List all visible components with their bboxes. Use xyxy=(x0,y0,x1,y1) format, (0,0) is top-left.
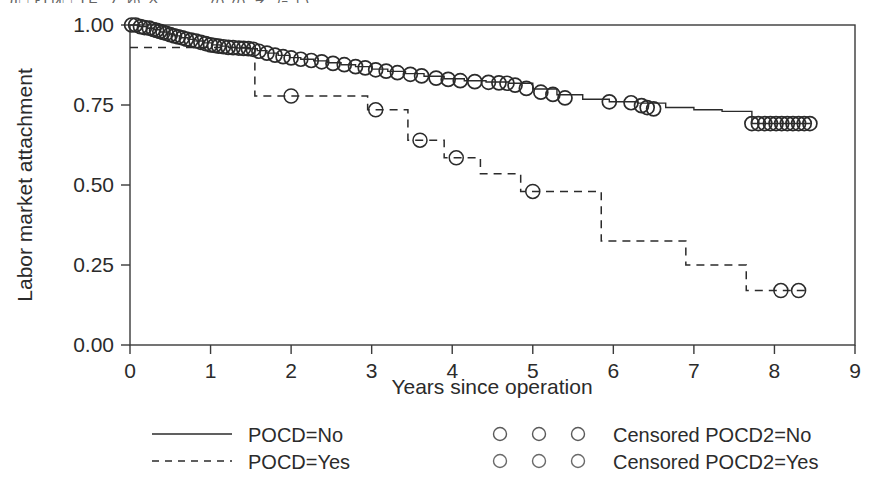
y-tick-label: 0.50 xyxy=(73,173,114,196)
x-tick-label: 2 xyxy=(285,359,297,382)
x-tick-label: 0 xyxy=(124,359,136,382)
y-axis-title: Labor market attachment xyxy=(13,68,36,302)
y-tick-label: 1.00 xyxy=(73,13,114,36)
x-tick-label: 6 xyxy=(607,359,619,382)
x-tick-label: 9 xyxy=(849,359,861,382)
y-tick-label: 0.75 xyxy=(73,93,114,116)
legend-swatch-censored-no-circles xyxy=(494,428,585,441)
legend-label-pocd-yes: POCD=Yes xyxy=(248,451,350,473)
plot-frame xyxy=(130,25,855,345)
legend-label-pocd-no: POCD=No xyxy=(248,424,343,446)
x-axis-title: Years since operation xyxy=(391,375,592,398)
legend-label-censored-no: Censored POCD2=No xyxy=(613,424,811,446)
y-tick-label: 0.00 xyxy=(73,333,114,356)
figure-container: Д□ гТИ□ ТЕ ノ ゆ へ こ こ の の え た い 二 0.000.2… xyxy=(0,0,880,482)
y-tick-label: 0.25 xyxy=(73,253,114,276)
kaplan-meier-chart: 0.000.250.500.751.00 0123456789 Years si… xyxy=(0,0,880,482)
x-tick-label: 3 xyxy=(366,359,378,382)
legend-swatch-censored-yes-circles xyxy=(494,455,585,468)
x-tick-label: 1 xyxy=(205,359,217,382)
x-tick-label: 7 xyxy=(688,359,700,382)
y-axis-ticks: 0.000.250.500.751.00 xyxy=(73,13,130,356)
legend-label-censored-yes: Censored POCD2=Yes xyxy=(613,451,819,473)
x-tick-label: 8 xyxy=(769,359,781,382)
chart-legend: POCD=No POCD=Yes Censored POCD2=No Censo… xyxy=(152,424,819,473)
